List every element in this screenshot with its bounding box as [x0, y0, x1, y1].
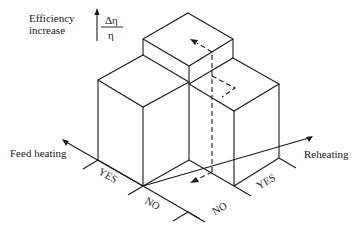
delta-eta-numerator: Δη — [105, 14, 118, 26]
dashed-arrow-bottom-icon — [190, 177, 199, 183]
y-axis-label: Efficiency increase — [29, 12, 75, 36]
reheating-label: Reheating — [304, 148, 349, 160]
delta-eta-denominator: η — [108, 29, 114, 41]
box-feed-heating-yes — [98, 55, 189, 186]
feed-heating-label: Feed heating — [10, 147, 67, 159]
